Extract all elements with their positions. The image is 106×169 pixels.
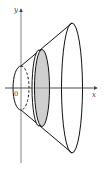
y-axis-label: y — [13, 6, 19, 14]
origin-label: 0 — [14, 90, 18, 98]
x-axis-label: x — [92, 91, 96, 99]
frustum-diagram: y x 0 — [0, 0, 106, 169]
